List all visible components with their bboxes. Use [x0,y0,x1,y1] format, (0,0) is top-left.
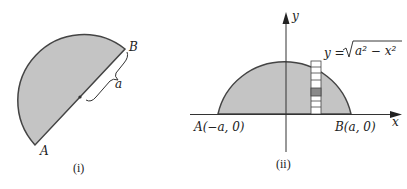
center-point-i [78,95,81,98]
curve-equation-label: y = a² − x² [323,41,402,60]
caption-ii: (ii) [276,157,291,171]
highlighted-cell [311,88,321,96]
vertical-strip [311,61,321,114]
diagram-canvas: B A a (i) x y A(−a, 0) B(a, 0) y = a² [0,0,407,189]
figure-ii: x y A(−a, 0) B(a, 0) y = a² − x² (ii) [190,9,402,171]
radius-label-i: a [115,77,122,91]
x-axis-label: x [392,115,399,129]
point-b-label: B(a, 0) [334,120,376,134]
svg-text:y =: y = [323,46,345,60]
semicircle-region-ii [218,62,351,114]
label-a-i: A [39,144,49,158]
y-axis-label: y [291,9,299,23]
semicircle-region-i [18,35,125,145]
label-b-i: B [128,40,138,54]
caption-i: (i) [73,161,84,175]
svg-text:a² − x²: a² − x² [355,44,396,58]
y-axis-arrow-icon [283,12,290,24]
point-a-label: A(−a, 0) [193,120,245,134]
figure-i: B A a (i) [18,35,138,175]
